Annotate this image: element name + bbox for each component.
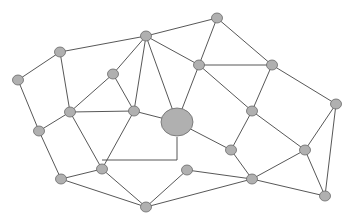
node-A [212, 13, 223, 23]
edge-L-N [231, 111, 252, 150]
node-D [13, 75, 24, 85]
edge-O-U [305, 150, 325, 196]
node-I [65, 107, 76, 117]
edge-E-J [113, 74, 134, 111]
edge-R-U [252, 179, 325, 196]
edge-A-G [217, 18, 272, 65]
node-J [129, 106, 140, 116]
node-T [141, 202, 152, 212]
node-U [320, 191, 331, 201]
node-G [267, 60, 278, 70]
edge-G-L [252, 65, 272, 111]
node-E [108, 69, 119, 79]
edge-E-I [70, 74, 113, 112]
graph-nodes [13, 13, 342, 212]
edge-C-D [18, 52, 60, 80]
edge-O-R [252, 150, 305, 179]
network-graph [0, 0, 350, 223]
node-B [141, 31, 152, 41]
edge-B-F [146, 36, 199, 65]
node-C [55, 47, 66, 57]
edge-I-P [70, 112, 102, 169]
node-H [331, 99, 342, 109]
node-N [226, 145, 237, 155]
node-P [97, 164, 108, 174]
edge-L-O [252, 111, 305, 150]
node-M [34, 126, 45, 136]
node-S [56, 174, 67, 184]
edge-D-M [18, 80, 39, 131]
edge-I-J [70, 111, 134, 112]
edge-Q-R [187, 170, 252, 179]
node-F [194, 60, 205, 70]
edge-F-L [199, 65, 252, 111]
edge-M-S [39, 131, 61, 179]
edge-A-F [199, 18, 217, 65]
node-O [300, 145, 311, 155]
node-R [247, 174, 258, 184]
hub-node [161, 108, 193, 136]
edge-C-I [60, 52, 70, 112]
edge-A-B [146, 18, 217, 36]
edge-P-T [102, 169, 146, 207]
edge-G-H [272, 65, 336, 104]
edge-B-C [60, 36, 146, 52]
node-L [247, 106, 258, 116]
edge-S-T [61, 179, 146, 207]
node-Q [182, 165, 193, 175]
edge-S-P [61, 169, 102, 179]
